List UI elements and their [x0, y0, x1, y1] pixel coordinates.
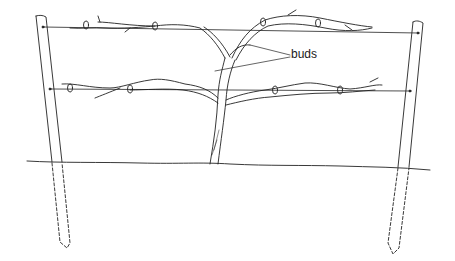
lower-right-arm	[226, 78, 382, 105]
bud-pointer-lower	[215, 57, 290, 71]
bud-pointer-upper	[250, 45, 290, 55]
trellis-vine-diagram	[0, 0, 455, 261]
ground-line	[27, 161, 430, 170]
left-post	[36, 15, 70, 248]
buds-label: buds	[291, 47, 317, 61]
upper-left-arm	[70, 16, 230, 58]
vine-trunk	[210, 58, 235, 164]
lower-left-arm	[62, 79, 218, 103]
bottom-wire	[50, 89, 410, 91]
right-post	[388, 21, 423, 254]
